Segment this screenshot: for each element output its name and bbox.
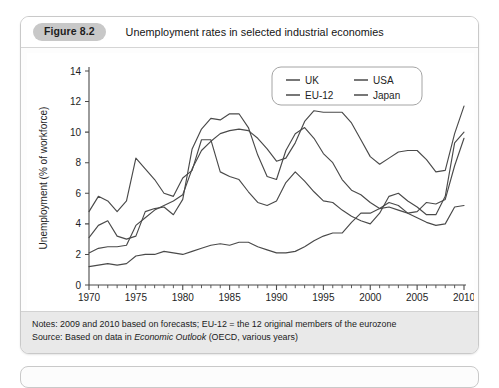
svg-text:2: 2 <box>75 249 81 260</box>
figure-title: Unemployment rates in selected industria… <box>126 26 384 38</box>
figure-notes: Notes: 2009 and 2010 based on forecasts;… <box>21 311 478 353</box>
svg-text:1975: 1975 <box>125 292 148 303</box>
chart-legend: UKUSAEU-12Japan <box>272 67 422 105</box>
svg-text:6: 6 <box>75 188 81 199</box>
legend-label-eu-12: EU-12 <box>305 90 334 101</box>
figure-header: Figure 8.2 Unemployment rates in selecte… <box>21 17 478 48</box>
svg-text:0: 0 <box>75 280 81 291</box>
svg-text:1970: 1970 <box>78 292 101 303</box>
source-line: Source: Based on data in Economic Outloo… <box>32 331 478 344</box>
notes-line: Notes: 2009 and 2010 based on forecasts;… <box>32 318 478 331</box>
svg-text:1995: 1995 <box>312 292 335 303</box>
svg-text:4: 4 <box>75 218 81 229</box>
figure-number-badge: Figure 8.2 <box>33 23 106 41</box>
figure-card: Figure 8.2 Unemployment rates in selecte… <box>20 16 479 354</box>
svg-text:8: 8 <box>75 157 81 168</box>
legend-label-uk: UK <box>305 75 319 86</box>
svg-text:Unemployment (% of workforce): Unemployment (% of workforce) <box>38 107 49 250</box>
svg-text:2000: 2000 <box>359 292 382 303</box>
svg-text:2005: 2005 <box>406 292 429 303</box>
svg-text:1990: 1990 <box>265 292 288 303</box>
source-prefix: Source: Based on data in <box>32 332 134 342</box>
source-publication: Economic Outlook <box>134 332 206 342</box>
chart-series <box>89 106 464 267</box>
series-line-uk <box>89 114 464 239</box>
unemployment-line-chart: 0246810121419701975198019851990199520002… <box>27 53 474 331</box>
svg-text:12: 12 <box>70 96 82 107</box>
svg-text:1985: 1985 <box>219 292 242 303</box>
chart-plot-area: 0246810121419701975198019851990199520002… <box>27 53 474 331</box>
legend-label-japan: Japan <box>373 90 400 101</box>
svg-text:10: 10 <box>70 127 82 138</box>
source-suffix: (OECD, various years) <box>206 332 298 342</box>
y-axis-title: Unemployment (% of workforce) <box>38 107 49 250</box>
svg-text:1980: 1980 <box>172 292 195 303</box>
next-figure-card <box>20 366 479 388</box>
svg-text:2010: 2010 <box>453 292 474 303</box>
svg-text:14: 14 <box>70 66 82 77</box>
notes-text: Notes: 2009 and 2010 based on forecasts;… <box>32 319 396 329</box>
legend-label-usa: USA <box>373 75 394 86</box>
